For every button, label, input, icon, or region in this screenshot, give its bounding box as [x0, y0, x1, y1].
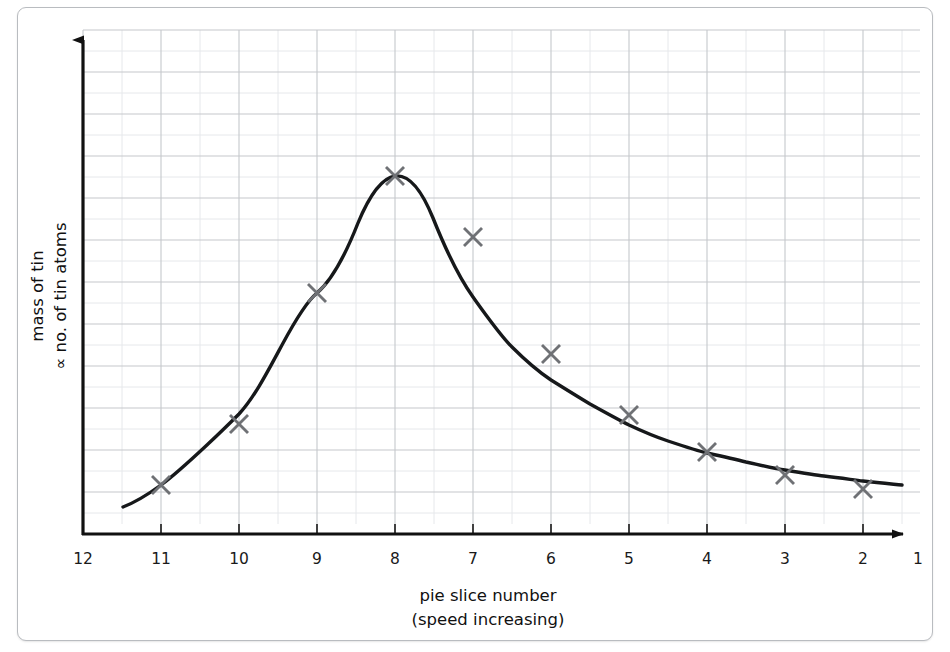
- x-tick-label-9: 9: [312, 550, 322, 568]
- x-tick-label-5: 5: [624, 550, 634, 568]
- x-tick-label-8: 8: [390, 550, 400, 568]
- figure-frame: 12 11 10 9 8 7 6 5 4 3 2 1 pie slice num…: [17, 7, 933, 641]
- x-axis-title: pie slice number (speed increasing): [412, 586, 565, 629]
- x-tick-label-10: 10: [229, 550, 249, 568]
- x-axis-title-main: pie slice number: [419, 586, 556, 605]
- x-tick-label-2: 2: [858, 550, 868, 568]
- x-tick-label-6: 6: [546, 550, 556, 568]
- x-tick-label-7: 7: [468, 550, 478, 568]
- x-tick-label-12: 12: [73, 550, 93, 568]
- x-tick-label-3: 3: [780, 550, 790, 568]
- x-axis-tick-labels: 12 11 10 9 8 7 6 5 4 3 2 1: [73, 550, 923, 568]
- x-tick-label-4: 4: [702, 550, 712, 568]
- y-axis-title-line1: mass of tin: [28, 250, 47, 341]
- grid-major: [83, 30, 920, 524]
- x-tick-label-1: 1: [913, 550, 923, 568]
- chart-canvas: 12 11 10 9 8 7 6 5 4 3 2 1 pie slice num…: [18, 8, 934, 642]
- y-axis-title-line2: ∝ no. of tin atoms: [51, 222, 70, 369]
- y-axis-title: mass of tin ∝ no. of tin atoms: [28, 222, 70, 369]
- x-tick-label-11: 11: [151, 550, 171, 568]
- x-axis-title-sub: (speed increasing): [412, 610, 565, 629]
